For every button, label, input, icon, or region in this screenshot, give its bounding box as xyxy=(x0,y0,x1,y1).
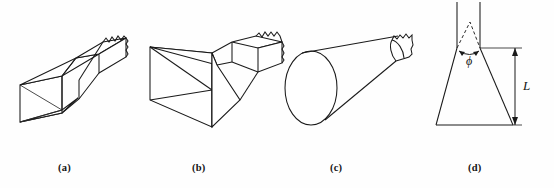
panel-caption-c: (c) xyxy=(330,162,342,173)
flare-angle-label: ϕ xyxy=(466,54,472,69)
panel-c-torn-edge-side xyxy=(406,40,413,58)
panel-b-throat-to-waveguide xyxy=(217,62,232,65)
panel-c-torn-edge-top xyxy=(392,34,412,40)
panel-c-throat-ellipse-far xyxy=(392,40,404,58)
panel-b-flare-lower-to-waveguide xyxy=(240,72,258,100)
figure-canvas xyxy=(0,0,554,188)
panel-b-pyramidal-horn xyxy=(150,32,284,127)
panel-c-aperture-ellipse xyxy=(285,51,337,125)
panel-c-conical-horn xyxy=(285,34,413,125)
panel-caption-b: (b) xyxy=(192,162,205,173)
horn-antenna-figure: ϕ L (a) (b) (c) (d) xyxy=(0,0,554,188)
panel-b-waveguide-bottom-edge xyxy=(232,62,258,72)
panel-b-right-flare xyxy=(212,53,240,127)
panel-a-sectoral-horn xyxy=(20,36,128,122)
panel-c-generatrix-upper xyxy=(302,36,398,53)
panel-c-throat-ellipse-near xyxy=(390,40,396,61)
panel-d-flare-wall-right xyxy=(480,48,513,125)
panel-b-throat-edge-upper xyxy=(212,42,232,53)
panel-d-apex-dashed-triangle xyxy=(457,22,480,48)
axial-length-label: L xyxy=(523,78,530,94)
panel-caption-d: (d) xyxy=(468,162,481,173)
panel-d-cross-section xyxy=(436,2,522,125)
panel-d-dimension-arrow-top xyxy=(512,48,518,56)
panel-d-flare-wall-left xyxy=(436,48,457,125)
panel-caption-a: (a) xyxy=(58,162,71,173)
panel-c-waveguide-lower-edge xyxy=(396,58,406,61)
